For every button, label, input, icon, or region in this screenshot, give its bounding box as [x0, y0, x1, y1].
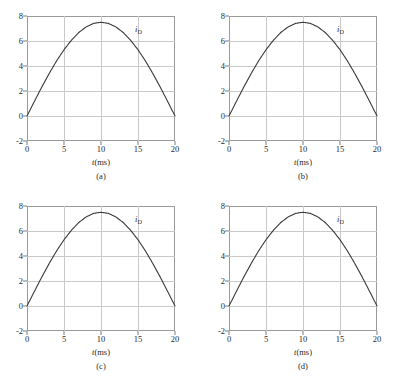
y-axis-tick-mark [23, 116, 27, 117]
x-axis-tick-label: 10 [97, 145, 106, 154]
x-axis-tick-mark [175, 331, 176, 335]
x-axis-tick-label: 20 [373, 145, 382, 154]
x-axis-label: t(ms) [27, 158, 175, 167]
y-axis-tick-mark [23, 91, 27, 92]
chart-panel-c: -20246805101520iDt(ms)(c) [0, 190, 202, 379]
y-axis-tick-mark [23, 66, 27, 67]
y-axis-tick-mark [225, 306, 229, 307]
x-axis-tick-label: 0 [227, 145, 231, 154]
plot-area: -20246805101520iD [229, 16, 377, 141]
x-axis-tick-mark [266, 331, 267, 335]
x-axis-tick-mark [303, 141, 304, 145]
x-axis-tick-mark [27, 331, 28, 335]
y-axis-tick-mark [225, 231, 229, 232]
y-axis-tick-mark [225, 66, 229, 67]
x-axis-tick-label: 5 [62, 335, 66, 344]
y-axis-tick-mark [23, 281, 27, 282]
x-axis-tick-label: 0 [25, 145, 29, 154]
plot-area: -20246805101520iD [27, 206, 175, 331]
x-axis-tick-label: 15 [134, 335, 143, 344]
x-axis-tick-mark [101, 331, 102, 335]
x-axis-tick-label: 15 [134, 145, 143, 154]
x-axis-tick-label: 20 [171, 145, 180, 154]
x-axis-tick-mark [266, 141, 267, 145]
curve-series-label: iD [337, 25, 344, 34]
y-axis-tick-mark [225, 16, 229, 17]
x-axis-tick-label: 15 [336, 145, 345, 154]
panel-caption: (c) [27, 362, 175, 371]
x-axis-label: t(ms) [229, 348, 377, 357]
x-axis-tick-label: 15 [336, 335, 345, 344]
x-axis-tick-label: 10 [97, 335, 106, 344]
x-axis-tick-mark [377, 141, 378, 145]
x-axis-tick-label: 10 [299, 335, 308, 344]
x-axis-label: t(ms) [27, 348, 175, 357]
chart-panel-b: -20246805101520iDt(ms)(b) [202, 0, 404, 190]
x-axis-tick-mark [27, 141, 28, 145]
panel-caption: (b) [229, 172, 377, 181]
y-axis-tick-mark [23, 231, 27, 232]
x-axis-tick-mark [64, 331, 65, 335]
y-axis-tick-label: -2 [16, 137, 23, 146]
x-axis-tick-mark [138, 141, 139, 145]
y-axis-tick-mark [225, 41, 229, 42]
x-axis-tick-label: 0 [227, 335, 231, 344]
plot-area: -20246805101520iD [229, 206, 377, 331]
y-axis-tick-mark [23, 16, 27, 17]
x-axis-tick-label: 5 [264, 335, 268, 344]
x-axis-tick-label: 5 [264, 145, 268, 154]
x-axis-tick-mark [377, 331, 378, 335]
x-axis-tick-mark [64, 141, 65, 145]
figure-panel-grid: -20246805101520iDt(ms)(a)-20246805101520… [0, 0, 404, 379]
x-axis-tick-mark [303, 331, 304, 335]
y-axis-tick-mark [23, 306, 27, 307]
x-axis-tick-label: 5 [62, 145, 66, 154]
curve-series-label: iD [135, 215, 142, 224]
y-axis-tick-mark [225, 206, 229, 207]
x-axis-tick-label: 0 [25, 335, 29, 344]
y-axis-tick-mark [225, 281, 229, 282]
data-curve [229, 206, 377, 331]
x-axis-tick-mark [175, 141, 176, 145]
x-axis-tick-label: 20 [171, 335, 180, 344]
x-axis-tick-mark [229, 331, 230, 335]
chart-panel-a: -20246805101520iDt(ms)(a) [0, 0, 202, 190]
plot-area: -20246805101520iD [27, 16, 175, 141]
y-axis-tick-label: -2 [218, 137, 225, 146]
x-axis-tick-mark [229, 141, 230, 145]
y-axis-tick-mark [225, 91, 229, 92]
data-curve [229, 16, 377, 141]
x-axis-tick-mark [340, 331, 341, 335]
chart-panel-d: -20246805101520iDt(ms)(d) [202, 190, 404, 379]
y-axis-tick-mark [23, 206, 27, 207]
x-axis-tick-label: 20 [373, 335, 382, 344]
y-axis-tick-label: -2 [16, 327, 23, 336]
x-axis-label: t(ms) [229, 158, 377, 167]
data-curve [27, 16, 175, 141]
x-axis-tick-mark [340, 141, 341, 145]
y-axis-tick-label: -2 [218, 327, 225, 336]
x-axis-tick-label: 10 [299, 145, 308, 154]
panel-caption: (a) [27, 172, 175, 181]
y-axis-tick-mark [225, 116, 229, 117]
x-axis-tick-mark [138, 331, 139, 335]
x-axis-tick-mark [101, 141, 102, 145]
curve-series-label: iD [135, 25, 142, 34]
y-axis-tick-mark [225, 256, 229, 257]
curve-series-label: iD [337, 215, 344, 224]
y-axis-tick-mark [23, 41, 27, 42]
data-curve [27, 206, 175, 331]
y-axis-tick-mark [23, 256, 27, 257]
panel-caption: (d) [229, 362, 377, 371]
